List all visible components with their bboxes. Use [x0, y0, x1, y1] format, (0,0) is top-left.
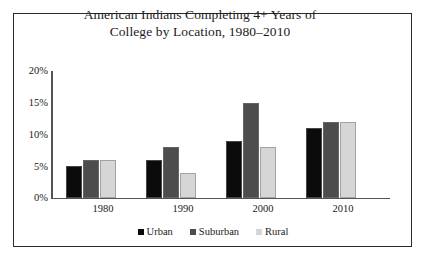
x-axis-tick-labels: 1980 1990 2000 2010: [51, 203, 390, 219]
bar-suburban-2000: [243, 103, 259, 198]
chart-legend: Urban Suburban Rural: [0, 226, 426, 237]
bar-urban-2010: [306, 128, 322, 198]
y-tick-label: 0%: [14, 193, 48, 203]
bar-suburban-1990: [163, 147, 179, 198]
chart-figure: American Indians Completing 4+ Years of …: [0, 0, 426, 262]
bar-group-2000: [223, 0, 303, 262]
legend-swatch-rural-icon: [256, 229, 262, 235]
bar-group-1980: [63, 0, 143, 262]
bar-suburban-2010: [323, 122, 339, 198]
legend-swatch-suburban-icon: [190, 229, 196, 235]
y-tick-label: 15%: [14, 98, 48, 108]
legend-item-rural: Rural: [256, 226, 288, 237]
y-tick-label: 5%: [14, 162, 48, 172]
legend-item-suburban: Suburban: [190, 226, 239, 237]
bar-rural-2010: [340, 122, 356, 198]
bar-rural-2000: [260, 147, 276, 198]
legend-label-suburban: Suburban: [199, 226, 239, 237]
bar-rural-1990: [180, 173, 196, 198]
bar-suburban-1980: [83, 160, 99, 198]
y-axis-tick-labels: 20% 15% 10% 5% 0%: [10, 0, 48, 262]
y-tick-label: 10%: [14, 130, 48, 140]
bar-group-1990: [143, 0, 223, 262]
x-tick-label-1980: 1980: [63, 203, 143, 214]
bar-urban-2000: [226, 141, 242, 198]
bar-group-2010: [303, 0, 383, 262]
x-tick-label-2000: 2000: [223, 203, 303, 214]
x-tick-label-2010: 2010: [303, 203, 383, 214]
bars-layer: [51, 0, 390, 262]
legend-swatch-urban-icon: [138, 229, 144, 235]
legend-item-urban: Urban: [138, 226, 173, 237]
bar-urban-1980: [66, 166, 82, 198]
x-tick-label-1990: 1990: [143, 203, 223, 214]
legend-label-rural: Rural: [265, 226, 288, 237]
legend-label-urban: Urban: [147, 226, 173, 237]
bar-rural-1980: [100, 160, 116, 198]
bar-urban-1990: [146, 160, 162, 198]
y-tick-label: 20%: [14, 66, 48, 76]
